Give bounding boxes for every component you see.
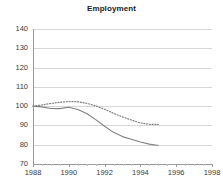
- x-axis-minor-tick: [167, 164, 168, 166]
- y-axis-tick-label: 70: [2, 159, 28, 168]
- x-axis-tick-label: 1992: [90, 168, 120, 177]
- x-axis-tick-mark: [105, 164, 106, 167]
- x-axis-minor-tick: [185, 164, 186, 166]
- y-axis-tick-label: 80: [2, 140, 28, 149]
- x-axis-minor-tick: [42, 164, 43, 166]
- x-axis-tick-label: 1994: [125, 168, 155, 177]
- employment-line-chart: Employment 14013012011010090807019881990…: [0, 0, 223, 193]
- gridline-y: [33, 145, 212, 146]
- x-axis-minor-tick: [158, 164, 159, 166]
- y-axis-tick-label: 140: [2, 24, 28, 33]
- y-axis-line: [33, 29, 34, 165]
- x-axis-minor-tick: [149, 164, 150, 166]
- x-axis-tick-label: 1996: [161, 168, 191, 177]
- x-axis-minor-tick: [123, 164, 124, 166]
- x-axis-tick-mark: [176, 164, 177, 167]
- x-axis-minor-tick: [51, 164, 52, 166]
- x-axis-tick-label: 1988: [18, 168, 48, 177]
- gridline-y: [33, 68, 212, 69]
- gridline-y: [33, 106, 212, 107]
- x-axis-tick-mark: [140, 164, 141, 167]
- x-axis-tick-mark: [212, 164, 213, 167]
- x-axis-minor-tick: [78, 164, 79, 166]
- gridline-y: [33, 29, 212, 30]
- y-axis-tick-label: 120: [2, 63, 28, 72]
- y-axis-tick-label: 90: [2, 120, 28, 129]
- chart-title: Employment: [0, 4, 223, 13]
- x-axis-tick-label: 1998: [197, 168, 223, 177]
- x-axis-tick-mark: [69, 164, 70, 167]
- x-axis-minor-tick: [87, 164, 88, 166]
- x-axis-minor-tick: [131, 164, 132, 166]
- y-axis-tick-label: 100: [2, 101, 28, 110]
- x-axis-minor-tick: [96, 164, 97, 166]
- x-axis-minor-tick: [114, 164, 115, 166]
- gridline-y: [33, 48, 212, 49]
- x-axis-tick-label: 1990: [54, 168, 84, 177]
- plot-area: [33, 29, 212, 164]
- y-axis-tick-label: 110: [2, 82, 28, 91]
- gridline-y: [33, 87, 212, 88]
- x-axis-minor-tick: [203, 164, 204, 166]
- gridline-y: [33, 125, 212, 126]
- y-axis-tick-label: 130: [2, 43, 28, 52]
- x-axis-minor-tick: [60, 164, 61, 166]
- x-axis-tick-mark: [33, 164, 34, 167]
- x-axis-minor-tick: [194, 164, 195, 166]
